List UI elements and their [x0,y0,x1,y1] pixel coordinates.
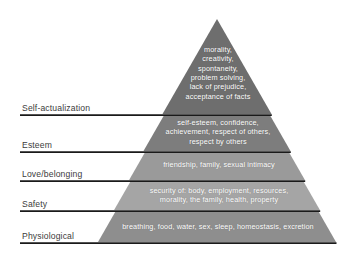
tier-label-esteem: Esteem [22,140,52,150]
tier-label-physiological: Physiological [22,231,74,241]
tier-label-love-belonging: Love/belonging [22,169,82,179]
tier-label-safety: Safety [22,199,47,209]
pyramid-tier-love-belonging [129,153,305,180]
pyramid-tier-self-actualization [163,19,272,114]
tier-label-self-actualization: Self-actualization [22,103,90,113]
pyramid-graphic [0,0,355,255]
pyramid-tier-physiological [98,212,336,242]
pyramid-tier-esteem [144,116,291,151]
maslow-hierarchy-diagram: morality, creativity, spontaneity, probl… [0,0,355,255]
pyramid-tier-safety [114,182,320,210]
